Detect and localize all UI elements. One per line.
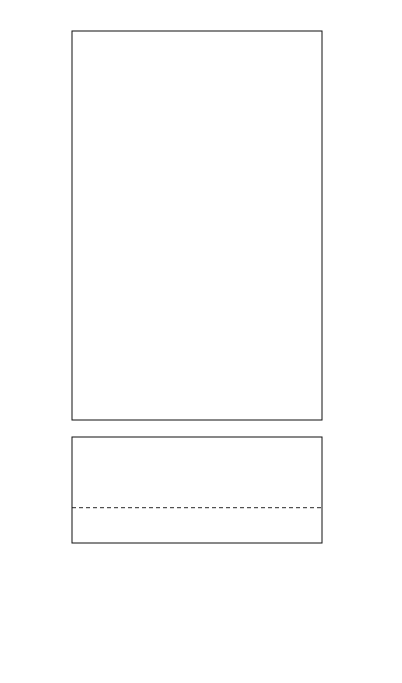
triangle-open-icon <box>203 615 213 625</box>
top-plot-frame <box>72 31 322 420</box>
chart-figure <box>0 0 402 580</box>
legend-item <box>203 625 216 635</box>
legend-item <box>15 605 30 617</box>
circle-filled-icon <box>203 595 213 605</box>
asterisk-icon <box>15 617 25 627</box>
circle-open-icon <box>203 585 213 595</box>
legend-item <box>203 585 216 595</box>
square-open-icon <box>203 605 213 615</box>
legend-item <box>15 617 30 627</box>
bottom-plot-frame <box>72 437 322 543</box>
legend-item <box>203 605 216 615</box>
triangle-open-icon <box>15 585 25 595</box>
star-open-icon <box>15 605 27 617</box>
legend-item <box>203 595 216 605</box>
legend-left-column <box>15 585 30 637</box>
square-filled-icon <box>203 625 213 635</box>
legend-item <box>203 615 216 625</box>
legend-item <box>15 595 30 605</box>
legend-item <box>15 585 30 595</box>
legend-item <box>15 627 30 637</box>
legend-right-column <box>203 585 216 635</box>
triangle-filled-icon <box>15 595 25 605</box>
square-open-icon <box>15 627 25 637</box>
